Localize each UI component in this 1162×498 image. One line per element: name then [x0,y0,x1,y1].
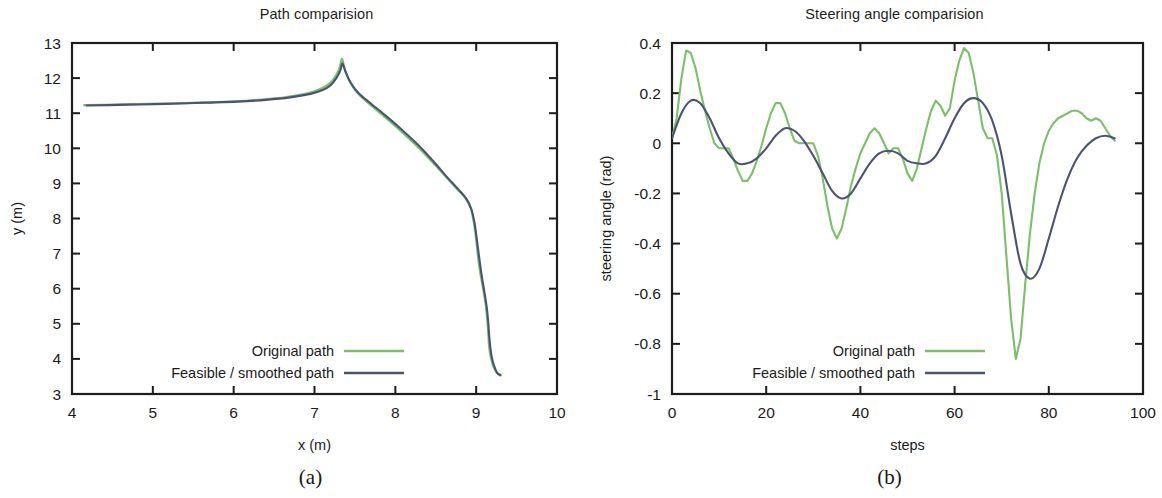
series-line [672,48,1115,359]
y-tick-label: 0.4 [639,35,661,52]
series-line [87,63,501,375]
x-tick-label: 20 [758,404,776,421]
y-tick-label: -0.6 [634,285,661,302]
series-line [84,59,500,375]
y-tick-label: 9 [52,175,61,192]
x-tick-label: 6 [229,404,238,421]
plot-frame [672,43,1143,394]
legend-label: Original path [833,343,915,359]
x-tick-label: 8 [391,404,400,421]
x-tick-label: 0 [668,404,677,421]
panel-b-caption: (b) [599,465,1162,490]
y-tick-label: 10 [44,140,62,157]
y-tick-label: -0.4 [634,235,661,252]
x-tick-label: 7 [310,404,319,421]
x-axis-label: steps [890,437,925,453]
x-tick-label: 40 [852,404,870,421]
y-tick-label: 11 [45,105,61,122]
legend-label: Feasible / smoothed path [171,365,334,381]
y-axis-label: steering angle (rad) [598,156,614,282]
y-tick-label: 5 [52,315,61,332]
y-tick-label: 6 [52,280,61,297]
y-tick-label: 3 [52,386,61,403]
x-axis-label: x (m) [298,437,331,453]
panel-b-plot: 020406080100-1-0.8-0.6-0.4-0.200.20.4ste… [581,0,1162,498]
y-tick-label: 0 [652,135,661,152]
y-tick-label: 4 [52,350,61,367]
y-tick-label: -1 [647,386,661,403]
x-tick-label: 9 [472,404,481,421]
plot-frame [72,43,557,394]
y-tick-label: 12 [44,70,61,87]
y-tick-label: 8 [52,210,61,227]
y-tick-label: -0.8 [634,335,661,352]
panel-a-plot: 45678910345678910111213x (m)y (m)Origina… [0,0,581,498]
panel-steering-comparison: Steering angle comparision 020406080100-… [581,0,1162,498]
panel-path-comparison: Path comparision 45678910345678910111213… [0,0,581,498]
y-tick-label: -0.2 [634,185,661,202]
legend-label: Feasible / smoothed path [752,365,915,381]
x-tick-label: 5 [149,404,158,421]
x-tick-label: 4 [68,404,77,421]
y-tick-label: 0.2 [639,85,661,102]
y-tick-label: 7 [52,245,61,262]
series-line [672,98,1115,279]
x-tick-label: 60 [946,404,964,421]
legend-label: Original path [252,343,334,359]
x-tick-label: 100 [1130,404,1156,421]
figure-container: Path comparision 45678910345678910111213… [0,0,1162,498]
x-tick-label: 80 [1040,404,1058,421]
panel-a-caption: (a) [20,465,601,490]
y-tick-label: 13 [44,35,61,52]
y-axis-label: y (m) [9,202,25,235]
x-tick-label: 10 [548,404,566,421]
